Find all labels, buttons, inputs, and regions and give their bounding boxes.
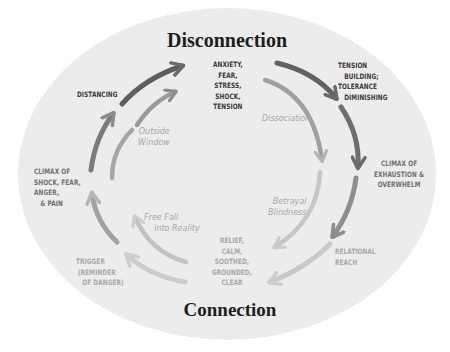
label-climax-exhaustion: CLIMAX OF EXHAUSTION & OVERWHELM (374, 159, 424, 191)
arrow-distancing-to-anxiety (122, 66, 182, 104)
cycle-diagram: Disconnection Connection ANXIETY, FEAR, … (0, 0, 450, 352)
label-free-fall: Free Fall into Reality (144, 212, 200, 234)
arrow-relational-reach-to-relief (270, 244, 330, 282)
label-anxiety-fear-stress: ANXIETY, FEAR, STRESS, SHOCK, TENSION (213, 60, 243, 113)
heading-connection: Connection (184, 299, 277, 321)
label-outside-window: Outside Window (138, 126, 170, 148)
arrow-trigger-to-climax-shock (92, 194, 117, 242)
arrow-climax-shock-to-distancing (91, 114, 113, 170)
arrow-left-inner-rise (112, 130, 132, 178)
label-betrayal-blindness: Betrayal Blindness (268, 196, 306, 218)
label-trigger: TRIGGER (REMINDER OF DANGER) (76, 257, 124, 289)
label-distancing: DISTANCING (77, 90, 118, 101)
arrow-tension-to-climax-exhaustion (341, 107, 358, 167)
label-relational-reach: RELATIONAL REACH (335, 247, 376, 268)
label-dissociation: Dissociation (262, 113, 310, 124)
label-relief-calm: RELIEF, CALM, SOOTHED, GROUNDED, CLEAR (212, 236, 252, 289)
arrow-climax-to-relational-reach (333, 178, 356, 236)
arrow-outside-window-inner (137, 92, 175, 125)
heading-disconnection: Disconnection (167, 29, 287, 52)
label-tension-building: TENSION BUILDING; TOLERANCE DIMINISHING (338, 61, 388, 103)
label-climax-shock: CLIMAX OF SHOCK, FEAR, ANGER, & PAIN (34, 167, 81, 209)
